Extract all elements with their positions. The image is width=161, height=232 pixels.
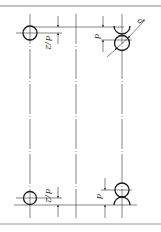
dim-label-d-vertical: d <box>93 34 102 39</box>
top-right-symbol: d d <box>93 16 146 57</box>
diagonal-dimension-through <box>117 38 128 48</box>
bottom-right-symbol: d <box>95 178 132 218</box>
bottom-left-symbol: d/2 <box>14 187 137 217</box>
dim-label-d-diagonal: d <box>136 16 146 26</box>
dim-label-d-half: d/2 <box>44 36 53 50</box>
dim-label-d-half: d/2 <box>44 189 53 203</box>
diagonal-dimension-line <box>107 48 117 57</box>
dim-label-d-vertical: d <box>95 194 104 199</box>
technical-drawing: d/2 d d d/2 d <box>0 0 161 232</box>
top-left-symbol: d/2 <box>16 16 124 50</box>
